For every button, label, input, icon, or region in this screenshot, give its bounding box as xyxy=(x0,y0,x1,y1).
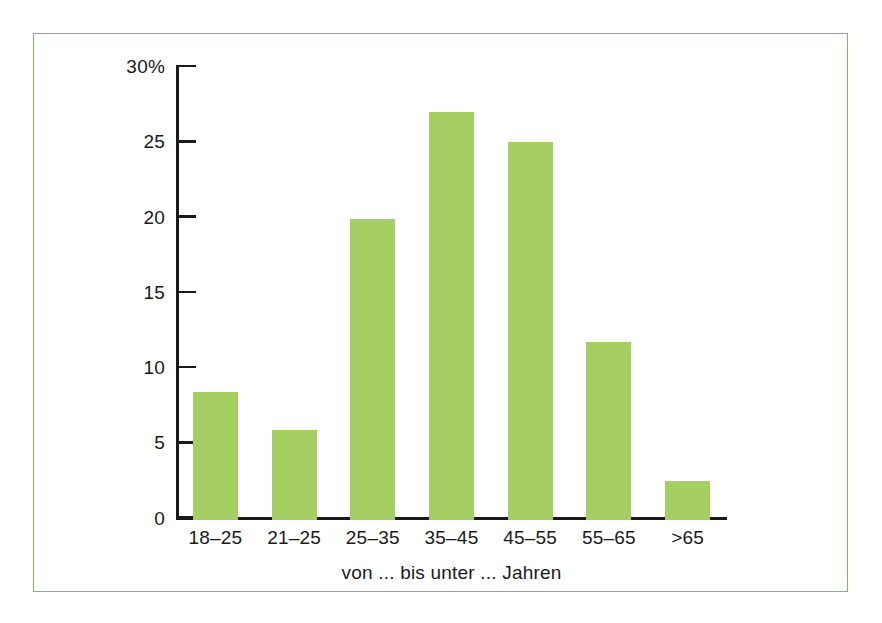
bar xyxy=(429,112,474,520)
y-axis-label-text: 5 xyxy=(105,433,165,452)
y-axis-label-text: 20 xyxy=(105,208,165,227)
bar xyxy=(508,142,553,520)
bar xyxy=(193,392,238,520)
bar xyxy=(665,481,710,520)
x-axis-label: >65 xyxy=(648,528,727,547)
y-axis-label: 10 xyxy=(105,358,165,377)
x-axis-title: von ... bis unter ... Jahren xyxy=(176,562,727,584)
x-axis-label: 35–45 xyxy=(412,528,491,547)
x-axis-label: 55–65 xyxy=(570,528,649,547)
y-axis-label: 25 xyxy=(105,132,165,151)
y-axis-label-text: 25 xyxy=(105,132,165,151)
y-axis-label: 20 xyxy=(105,208,165,227)
y-axis-label-text: 30% xyxy=(105,57,165,76)
y-axis-label-text: 15 xyxy=(105,283,165,302)
bar-series xyxy=(176,66,727,520)
x-axis-label: 21–25 xyxy=(255,528,334,547)
y-axis-label: 30% xyxy=(105,57,165,76)
chart-page: 051015202530% 18–2521–2525–3535–4545–555… xyxy=(0,0,882,623)
x-axis-label: 25–35 xyxy=(333,528,412,547)
bar xyxy=(350,219,395,520)
x-axis-label: 18–25 xyxy=(176,528,255,547)
y-axis-label: 15 xyxy=(105,283,165,302)
y-axis-label-text: 0 xyxy=(105,509,165,528)
plot-area: 051015202530% 18–2521–2525–3535–4545–555… xyxy=(0,0,882,623)
y-axis-label-text: 10 xyxy=(105,358,165,377)
bar xyxy=(272,430,317,520)
y-axis-label: 5 xyxy=(105,433,165,452)
x-axis-label: 45–55 xyxy=(491,528,570,547)
y-axis-label: 0 xyxy=(105,509,165,528)
bar xyxy=(586,342,631,520)
